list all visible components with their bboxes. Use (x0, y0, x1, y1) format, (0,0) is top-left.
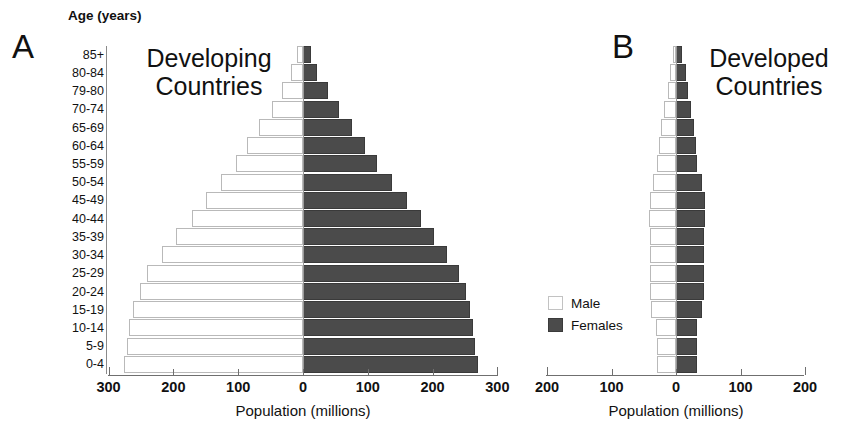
pyramid-row (546, 119, 804, 136)
bar-male (147, 265, 303, 282)
bar-female (303, 246, 447, 263)
bar-male (651, 301, 676, 318)
bar-male (176, 228, 303, 245)
bar-male (221, 174, 303, 191)
bar-male (297, 46, 303, 63)
bar-male (650, 283, 676, 300)
bar-male (656, 319, 676, 336)
bar-female (303, 192, 407, 209)
age-label: 0-4 (86, 358, 104, 371)
bar-male (129, 319, 303, 336)
age-label: 85+ (83, 49, 104, 62)
age-label: 65-69 (72, 122, 104, 135)
age-label: 10-14 (72, 322, 104, 335)
x-axis-tick-label: 200 (161, 379, 185, 395)
pyramid-row (546, 64, 804, 81)
pyramid-row (546, 210, 804, 227)
age-label: 20-24 (72, 286, 104, 299)
x-axis-tick (741, 369, 742, 375)
bar-female (303, 283, 466, 300)
bar-male (657, 155, 676, 172)
pyramid-row (546, 46, 804, 63)
bar-female (676, 210, 705, 227)
x-axis-tick (676, 369, 677, 375)
pyramid-row (546, 283, 804, 300)
bar-female (303, 119, 352, 136)
pyramid-row (546, 174, 804, 191)
bar-female (303, 356, 478, 373)
plot-area-b (546, 46, 804, 374)
bar-female (676, 283, 704, 300)
bar-female (303, 228, 434, 245)
x-axis-tick-label: 100 (226, 379, 250, 395)
bar-female (303, 137, 365, 154)
age-label: 79-80 (72, 85, 104, 98)
bar-male (659, 137, 676, 154)
bar-male (140, 283, 303, 300)
pyramid-row (546, 137, 804, 154)
plot-area-a (108, 46, 498, 374)
bar-female (676, 192, 705, 209)
pyramid-row (546, 192, 804, 209)
bar-male (247, 137, 303, 154)
x-axis-tick (805, 367, 806, 375)
pyramid-row (546, 246, 804, 263)
age-axis-header: Age (years) (68, 8, 142, 23)
age-label: 35-39 (72, 231, 104, 244)
x-axis-tick-label: 0 (672, 379, 680, 395)
bar-female (676, 101, 691, 118)
bar-female (676, 301, 702, 318)
pyramid-row (546, 265, 804, 282)
bar-female (303, 46, 311, 63)
x-axis-line-a (108, 375, 498, 376)
panel-developing-countries: A Age (years) Developing Countries 85+80… (0, 0, 540, 447)
bar-female (676, 174, 702, 191)
bar-female (303, 82, 328, 99)
x-axis-tick (497, 367, 498, 375)
x-axis-line-b (546, 375, 804, 376)
x-axis-tick-label: 300 (96, 379, 120, 395)
bar-female (303, 101, 339, 118)
x-axis-tick-label: 0 (299, 379, 307, 395)
pyramid-row (546, 82, 804, 99)
bar-male (650, 246, 676, 263)
age-label: 55-59 (72, 158, 104, 171)
bar-male (291, 64, 303, 81)
center-axis-spine (676, 46, 677, 374)
pyramid-row (546, 301, 804, 318)
age-label: 50-54 (72, 176, 104, 189)
bar-male (259, 119, 303, 136)
age-axis-rule (106, 46, 107, 374)
age-label: 15-19 (72, 304, 104, 317)
x-axis-tick (368, 369, 369, 375)
x-axis-tick (433, 369, 434, 375)
bar-female (676, 228, 704, 245)
bar-male (650, 265, 676, 282)
bar-female (676, 82, 688, 99)
bar-female (303, 338, 475, 355)
bar-female (676, 246, 704, 263)
x-axis-tick (547, 367, 548, 375)
bar-male (657, 356, 676, 373)
bar-male (653, 174, 676, 191)
bar-male (668, 82, 676, 99)
pyramid-row (546, 356, 804, 373)
pyramid-row (546, 338, 804, 355)
bar-male (133, 301, 303, 318)
bar-male (236, 155, 303, 172)
bar-male (664, 101, 676, 118)
age-label: 25-29 (72, 267, 104, 280)
bar-female (676, 265, 704, 282)
x-axis-tick-label: 200 (535, 379, 559, 395)
age-label: 80-84 (72, 67, 104, 80)
bar-female (303, 155, 377, 172)
x-axis-title-b: Population (millions) (608, 402, 743, 419)
x-axis-tick-label: 100 (599, 379, 623, 395)
bar-female (303, 265, 459, 282)
age-label: 45-49 (72, 194, 104, 207)
bar-male (272, 101, 303, 118)
pyramid-row (546, 101, 804, 118)
pyramid-row (546, 319, 804, 336)
bar-female (676, 338, 697, 355)
bar-female (676, 155, 697, 172)
